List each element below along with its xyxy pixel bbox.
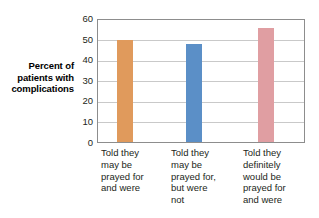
y-tick-label: 10 — [60, 117, 93, 127]
bar-told-may-be-prayed-for-and-were[interactable] — [117, 40, 133, 142]
x-label-line: prayed for, — [171, 171, 243, 183]
x-label-line: may be — [101, 159, 173, 171]
y-axis-tick-labels: 60 50 40 30 20 10 0 — [60, 0, 93, 218]
x-label-line: would be — [243, 171, 315, 183]
y-tick-label: 60 — [60, 14, 93, 24]
plot-area — [97, 19, 305, 143]
bar-slot — [186, 20, 202, 142]
y-tick-label: 50 — [60, 35, 93, 45]
y-tick-label: 0 — [60, 138, 93, 148]
x-label-group-1: Told they may be prayed for and were — [101, 147, 173, 194]
x-label-line: definitely — [243, 159, 315, 171]
x-label-line: not — [171, 194, 243, 206]
x-label-line: and were — [101, 182, 173, 194]
x-label-line: prayed for — [243, 182, 315, 194]
x-label-line: prayed for — [101, 171, 173, 183]
bar-told-definitely-would-be-prayed-for-and-were[interactable] — [258, 28, 274, 142]
x-label-line: Told they — [171, 147, 243, 159]
x-label-line: Told they — [243, 147, 315, 159]
x-label-line: Told they — [101, 147, 173, 159]
bar-told-may-be-prayed-for-but-were-not[interactable] — [186, 44, 202, 142]
y-tick-label: 40 — [60, 55, 93, 65]
bar-slot — [258, 20, 274, 142]
x-axis-category-labels: Told they may be prayed for and were Tol… — [97, 147, 319, 218]
bar-chart-figure: Percent of patients with complications 6… — [0, 0, 319, 218]
y-tick-label: 30 — [60, 76, 93, 86]
x-label-line: may be — [171, 159, 243, 171]
x-label-group-2: Told they may be prayed for, but were no… — [171, 147, 243, 206]
x-label-group-3: Told they definitely would be prayed for… — [243, 147, 315, 206]
x-label-line: and were — [243, 194, 315, 206]
y-tick-label: 20 — [60, 96, 93, 106]
x-label-line: but were — [171, 182, 243, 194]
bar-slot — [117, 20, 133, 142]
